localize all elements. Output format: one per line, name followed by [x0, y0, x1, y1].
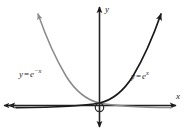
x-axis-label: x: [176, 92, 180, 101]
curve-label-growth: y=ex: [131, 72, 149, 81]
curve-label-decay: y=e−x: [19, 70, 41, 79]
growth-label-exponent: x: [146, 69, 149, 76]
y-axis-label: y: [105, 5, 109, 14]
curve-growth: [16, 14, 161, 108]
exponential-functions-figure: y x y=e−x y=ex: [0, 0, 188, 133]
curve-decay: [38, 14, 172, 108]
decay-label-exponent: −x: [34, 67, 41, 74]
graph-canvas: [0, 0, 188, 133]
